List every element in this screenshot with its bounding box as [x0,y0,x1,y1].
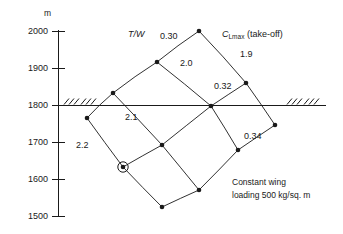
y-tick-label-1900: 1900 [14,63,48,75]
y-tick-label-1500: 1500 [14,211,48,223]
y-tick-label-1800: 1800 [14,100,48,112]
tw-curve-label-0-32: 0.32 [214,81,232,93]
clmax-curve-label-2-1: 2.1 [125,112,138,124]
axis-unit-label: m [44,8,51,19]
clmax-symbol: C [222,29,229,39]
tw-curve-label-0-30: 0.30 [160,31,178,43]
clmax-family-title: CLmax (take-off) [222,29,283,41]
clmax-curve-2-1 [113,93,199,190]
carpet-plot-figure: m 2000 1900 1800 1700 1600 1500 T/W CLma… [0,0,343,234]
clmax-subscript: Lmax [229,33,245,40]
note-line-1: Constant wing [232,176,286,188]
hatch-right [287,99,319,105]
clmax-curve-1-9 [199,31,275,125]
note-line-2: loading 500 kg/sq. m [232,189,310,201]
clmax-suffix: (take-off) [247,29,283,39]
clmax-curve-label-2-0: 2.0 [180,58,193,70]
tw-curve-label-0-34: 0.34 [244,131,262,143]
y-tick-label-1700: 1700 [14,137,48,149]
y-tick-label-1600: 1600 [14,174,48,186]
y-tick-label-2000: 2000 [14,26,48,38]
tw-curve-0-32 [123,83,246,167]
hatch-left [64,99,96,105]
clmax-curve-label-1-9: 1.9 [240,49,253,61]
tw-curve-0-34-upper [87,62,157,118]
tw-family-title: T/W [128,29,145,41]
clmax-curve-label-2-2: 2.2 [76,140,89,152]
